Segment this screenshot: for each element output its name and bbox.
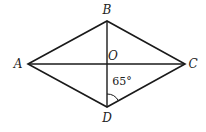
- label-o: O: [108, 49, 118, 63]
- label-a: A: [13, 57, 23, 71]
- label-b: B: [102, 3, 112, 17]
- label-d: D: [101, 111, 112, 125]
- angle-label: 65°: [112, 75, 132, 88]
- label-c: C: [188, 57, 197, 71]
- rhombus-diagram: B A C D O 65°: [0, 0, 206, 132]
- angle-arc: [107, 94, 118, 101]
- diagram-canvas: B A C D O 65°: [0, 0, 206, 132]
